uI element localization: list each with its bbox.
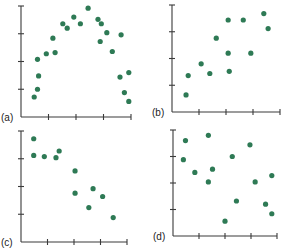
data-point bbox=[78, 21, 83, 26]
data-point bbox=[53, 50, 58, 55]
scatter-panel-a: (a) bbox=[1, 6, 131, 123]
data-point bbox=[269, 211, 274, 216]
data-point bbox=[72, 191, 77, 196]
data-point bbox=[119, 32, 124, 37]
data-point bbox=[266, 26, 271, 31]
data-point bbox=[71, 15, 76, 20]
data-point bbox=[207, 71, 212, 76]
panel-label: (c) bbox=[1, 237, 13, 248]
data-point bbox=[227, 69, 232, 74]
data-point bbox=[186, 73, 191, 78]
data-point bbox=[247, 142, 252, 147]
data-point bbox=[199, 61, 204, 66]
scatter-panel-c: (c) bbox=[1, 131, 127, 248]
data-point bbox=[98, 39, 103, 44]
data-point bbox=[222, 219, 227, 224]
data-point bbox=[230, 154, 235, 159]
data-point bbox=[65, 26, 70, 31]
data-point bbox=[226, 51, 231, 56]
data-point bbox=[126, 70, 131, 75]
data-point bbox=[72, 168, 77, 173]
data-point bbox=[226, 17, 231, 22]
data-point bbox=[111, 215, 116, 220]
data-point bbox=[248, 51, 253, 56]
data-point bbox=[60, 21, 65, 26]
data-point bbox=[214, 36, 219, 41]
data-point bbox=[183, 138, 188, 143]
data-point bbox=[57, 148, 62, 153]
data-point bbox=[31, 136, 36, 141]
panel-label: (b) bbox=[152, 107, 164, 118]
data-point bbox=[31, 153, 36, 158]
data-point bbox=[181, 157, 186, 162]
data-point bbox=[117, 74, 122, 79]
data-point bbox=[253, 179, 258, 184]
data-point bbox=[50, 36, 55, 41]
scatter-panel-b: (b) bbox=[152, 5, 280, 118]
data-point bbox=[126, 99, 131, 104]
data-point bbox=[110, 49, 115, 54]
panel-label: (d) bbox=[153, 231, 165, 242]
data-point bbox=[104, 30, 109, 35]
data-point bbox=[206, 133, 211, 138]
data-point bbox=[35, 87, 40, 92]
data-point bbox=[261, 11, 266, 16]
data-point bbox=[206, 179, 211, 184]
data-point bbox=[90, 186, 95, 191]
scatter-panel-d: (d) bbox=[153, 130, 277, 242]
data-point bbox=[86, 6, 91, 11]
data-point bbox=[241, 17, 246, 22]
data-point bbox=[36, 73, 41, 78]
data-point bbox=[35, 57, 40, 62]
data-point bbox=[263, 202, 268, 207]
data-point bbox=[100, 194, 105, 199]
data-point bbox=[42, 154, 47, 159]
data-point bbox=[234, 198, 239, 203]
data-point bbox=[44, 51, 49, 56]
data-point bbox=[95, 17, 100, 22]
data-point bbox=[122, 90, 127, 95]
data-point bbox=[32, 94, 37, 99]
data-point bbox=[210, 167, 215, 172]
data-point bbox=[183, 92, 188, 97]
scatter-plot-grid: (a) (b) (c) (d) bbox=[0, 0, 285, 248]
data-point bbox=[269, 173, 274, 178]
data-point bbox=[53, 155, 58, 160]
data-point bbox=[86, 205, 91, 210]
data-point bbox=[192, 170, 197, 175]
panel-label: (a) bbox=[1, 112, 13, 123]
data-point bbox=[99, 21, 104, 26]
